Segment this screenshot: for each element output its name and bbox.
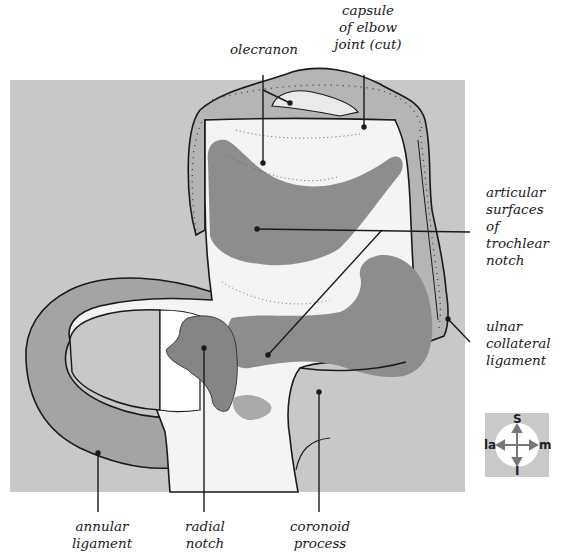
label-ulnar-collateral-ligament: ulnar collateral ligament: [486, 318, 551, 369]
orientation-compass: S I la m: [485, 413, 549, 477]
label-articular-surfaces: articular surfaces of trochlear notch: [486, 184, 549, 269]
label-radial-notch: radial notch: [170, 518, 240, 552]
label-capsule: capsule of elbow joint (cut): [303, 2, 433, 53]
compass-medial: m: [539, 439, 552, 451]
ulna-illustration: [0, 0, 562, 555]
compass-inferior: I: [515, 465, 519, 477]
anatomy-figure: capsule of elbow joint (cut) olecranon a…: [0, 0, 562, 555]
compass-superior: S: [513, 413, 522, 425]
label-coronoid-process: coronoid process: [274, 518, 366, 552]
compass-lateral: la: [484, 439, 496, 451]
label-olecranon: olecranon: [218, 41, 310, 58]
label-annular-ligament: annular ligament: [52, 518, 152, 552]
